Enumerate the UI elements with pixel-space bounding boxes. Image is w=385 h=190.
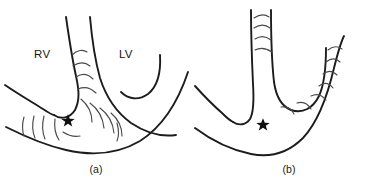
hatch-lv-lateral-2 xyxy=(326,59,340,62)
septum-lv-border-line xyxy=(90,17,176,136)
rv-free-wall-line xyxy=(195,86,233,122)
hatch-septum-3 xyxy=(255,36,271,40)
lv-lateral-wall-line xyxy=(121,55,160,98)
star-marker xyxy=(256,118,269,130)
hatch-rv-apex-1 xyxy=(23,117,25,136)
hatch-septum-4 xyxy=(78,88,96,93)
panel-b-caption: (b) xyxy=(193,163,385,175)
hatch-lv-lateral-7 xyxy=(281,107,294,114)
hatch-rv-apex-5 xyxy=(117,123,119,141)
hatch-septum-1 xyxy=(254,15,269,18)
epicardial-outer-border-line xyxy=(6,72,188,153)
panel-b: (b) xyxy=(193,0,385,190)
hatch-rv-apex-2 xyxy=(33,116,35,138)
label-left-ventricle: LV xyxy=(119,48,133,60)
panel-a-drawing xyxy=(0,0,192,190)
hatch-septum-4 xyxy=(255,48,272,52)
star-marker xyxy=(61,114,74,126)
panel-b-drawing xyxy=(193,0,385,190)
septum-rv-border-line xyxy=(233,10,254,124)
hatch-apical-arc-5 xyxy=(63,132,80,136)
hatch-septum-2 xyxy=(254,25,270,28)
hatch-rv-apex-3 xyxy=(43,116,45,139)
hatch-apical-arc-2 xyxy=(90,103,104,128)
figure-root: RV LV (a) xyxy=(0,0,385,190)
hatch-rv-apex-4 xyxy=(55,119,59,140)
hatch-septum-1 xyxy=(72,50,87,55)
hatch-septum-2 xyxy=(73,63,90,66)
septum-lv-border-line xyxy=(271,10,326,111)
hatch-septum-3 xyxy=(76,75,93,79)
panel-a-caption: (a) xyxy=(0,163,192,175)
hatch-apical-arc-1 xyxy=(81,99,92,122)
rv-free-wall-line xyxy=(5,85,54,115)
panel-a: RV LV (a) xyxy=(0,0,192,190)
septum-rv-border-line xyxy=(54,17,79,118)
label-right-ventricle: RV xyxy=(34,48,50,60)
